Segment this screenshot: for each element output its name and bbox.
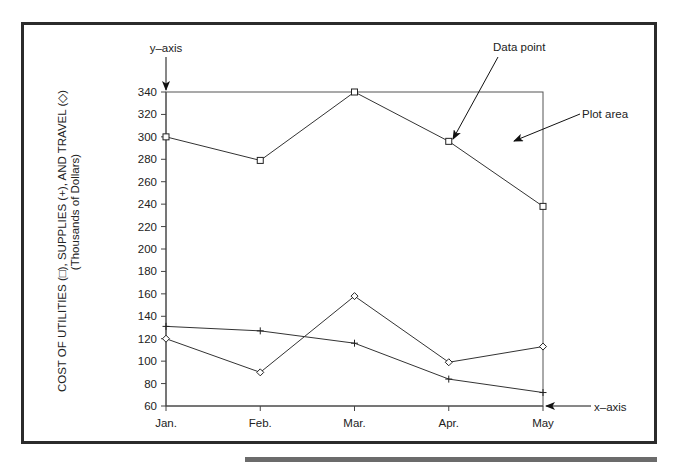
square-marker-icon [257, 157, 263, 163]
plus-marker-icon [257, 327, 264, 334]
y-axis-label: COST OF UTILITIES (□), SUPPLIES (+), AND… [56, 90, 68, 392]
x-axis-callout: x–axis [594, 401, 627, 413]
diamond-marker-icon [163, 335, 170, 342]
data-point-arrow-icon [453, 57, 498, 139]
x-axis-ticks: Jan.Feb.Mar.Apr.May [155, 406, 554, 429]
y-tick-label: 220 [138, 221, 157, 233]
y-tick-label: 240 [138, 198, 157, 210]
x-tick-label: Mar. [343, 417, 365, 429]
y-tick-label: 120 [138, 333, 157, 345]
y-tick-label: 260 [138, 176, 157, 188]
square-marker-icon [352, 89, 358, 95]
plot-area-arrow-icon [514, 114, 580, 141]
plus-marker-icon [540, 389, 547, 396]
plus-marker-icon [163, 323, 170, 330]
diamond-marker-icon [540, 343, 547, 350]
y-tick-label: 80 [144, 378, 157, 390]
y-tick-label: 140 [138, 310, 157, 322]
y-tick-label: 200 [138, 243, 157, 255]
square-marker-icon [446, 138, 452, 144]
y-tick-label: 340 [138, 86, 157, 98]
x-tick-label: Apr. [439, 417, 459, 429]
series-lines [163, 89, 547, 396]
square-marker-icon [163, 134, 169, 140]
y-tick-label: 160 [138, 288, 157, 300]
data-point-callout: Data point [493, 41, 546, 53]
square-marker-icon [540, 203, 546, 209]
diamond-marker-icon [445, 359, 452, 366]
y-axis-callout: y–axis [150, 42, 183, 54]
x-tick-label: May [532, 417, 554, 429]
y-axis-units-label: (Thousands of Dollars) [69, 154, 81, 270]
line-chart: 6080100120140160180200220240260280300320… [0, 0, 679, 469]
series-supplies [163, 323, 547, 396]
x-tick-label: Feb. [249, 417, 272, 429]
y-tick-label: 280 [138, 153, 157, 165]
series-utilities [163, 89, 546, 209]
y-tick-label: 180 [138, 265, 157, 277]
y-axis-ticks: 6080100120140160180200220240260280300320… [138, 86, 166, 412]
x-tick-label: Jan. [155, 417, 177, 429]
plus-marker-icon [445, 376, 452, 383]
plus-marker-icon [351, 340, 358, 347]
y-tick-label: 100 [138, 355, 157, 367]
y-tick-label: 320 [138, 108, 157, 120]
plot-area-callout: Plot area [582, 108, 629, 120]
y-tick-label: 300 [138, 131, 157, 143]
y-tick-label: 60 [144, 400, 157, 412]
series-travel [163, 293, 547, 376]
